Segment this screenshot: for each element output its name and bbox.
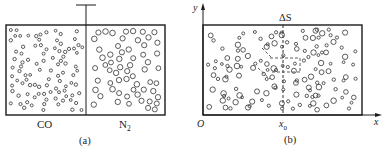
molecule: [9, 39, 12, 42]
molecule: [354, 50, 357, 53]
origin-label: O: [197, 118, 204, 129]
molecule: [15, 50, 18, 53]
molecule: [240, 65, 243, 68]
n2-molecules: [91, 28, 161, 112]
molecule: [20, 52, 23, 55]
molecule: [42, 52, 45, 55]
molecule: [301, 29, 304, 32]
molecule: [58, 91, 61, 94]
molecule: [56, 39, 59, 42]
molecule: [77, 44, 80, 47]
molecule: [285, 41, 288, 44]
molecule: [225, 56, 230, 61]
molecule: [80, 109, 83, 112]
molecule: [141, 87, 146, 92]
molecule: [57, 63, 60, 66]
molecule: [223, 105, 228, 110]
molecule: [334, 88, 337, 91]
molecule: [154, 81, 159, 86]
molecule: [64, 62, 67, 65]
molecule: [59, 59, 62, 62]
molecule: [73, 47, 76, 50]
molecule: [307, 55, 310, 58]
molecule: [19, 35, 22, 38]
molecule: [24, 74, 27, 77]
molecule: [318, 60, 323, 65]
molecule: [29, 74, 32, 77]
molecule: [216, 77, 219, 80]
molecule: [27, 34, 30, 37]
molecule: [259, 59, 262, 62]
y-axis-arrow-icon: [201, 3, 205, 10]
molecule: [315, 45, 318, 48]
molecule: [295, 47, 300, 52]
molecule: [21, 82, 24, 85]
molecule: [250, 99, 255, 104]
molecule: [146, 35, 151, 40]
molecule: [152, 107, 157, 112]
molecule: [207, 105, 212, 110]
molecule: [298, 103, 301, 106]
molecule: [331, 39, 336, 44]
molecule: [54, 47, 57, 50]
molecule: [352, 63, 355, 66]
molecule: [65, 95, 68, 98]
molecule: [39, 44, 42, 47]
molecule: [279, 32, 284, 37]
molecule: [236, 49, 239, 52]
molecule: [62, 55, 65, 58]
molecule: [286, 66, 289, 69]
molecule: [270, 75, 275, 80]
molecule: [71, 108, 74, 111]
molecule: [211, 73, 216, 78]
molecule: [142, 43, 147, 48]
molecule: [221, 91, 227, 97]
molecule: [38, 68, 41, 71]
molecule: [54, 29, 57, 32]
molecule: [67, 47, 70, 50]
molecule: [95, 78, 100, 83]
molecule: [124, 76, 129, 81]
molecule: [72, 74, 75, 77]
molecule: [42, 59, 45, 62]
molecule: [45, 98, 48, 101]
molecule: [208, 33, 213, 38]
molecule: [30, 104, 33, 107]
molecule: [221, 63, 224, 66]
caption-b: (b): [284, 134, 297, 146]
molecule: [352, 95, 357, 100]
molecule: [251, 65, 256, 70]
molecule: [234, 87, 237, 90]
molecule: [76, 69, 79, 72]
molecule: [139, 98, 144, 103]
molecule: [142, 67, 147, 72]
molecule: [131, 56, 136, 61]
molecule: [221, 47, 224, 50]
molecule: [281, 107, 284, 110]
molecule: [110, 86, 116, 92]
molecule: [326, 69, 331, 74]
label-co: CO: [37, 118, 52, 130]
molecule: [28, 83, 31, 86]
molecule: [58, 79, 61, 82]
molecule: [317, 54, 320, 57]
molecule: [103, 29, 109, 35]
molecule: [234, 63, 240, 69]
molecule: [259, 37, 262, 40]
molecule: [54, 87, 57, 90]
molecule: [264, 91, 269, 96]
molecule: [78, 92, 81, 95]
molecule: [126, 47, 131, 52]
molecule: [329, 62, 332, 65]
molecule: [220, 98, 225, 103]
molecule: [214, 60, 217, 63]
molecule: [155, 40, 160, 45]
molecule: [341, 96, 344, 99]
molecule: [43, 103, 46, 106]
x0-label: x0: [278, 118, 287, 132]
molecule: [324, 50, 329, 55]
molecule: [207, 63, 210, 66]
molecule: [148, 80, 153, 85]
molecule: [327, 28, 330, 31]
molecule: [35, 62, 38, 65]
